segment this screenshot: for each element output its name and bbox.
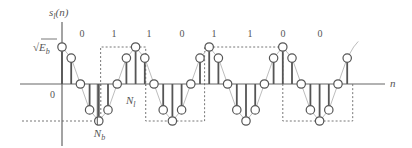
bit-label: 1 <box>147 28 152 39</box>
bit-label: 1 <box>212 28 217 39</box>
dashed-box <box>283 84 320 121</box>
stem-marker <box>85 106 93 114</box>
y-label-arg: (n) <box>56 6 69 19</box>
bit-label: 0 <box>180 28 185 39</box>
stem-marker <box>279 43 287 51</box>
bit-label: 0 <box>318 28 323 39</box>
stem-marker <box>95 117 103 125</box>
stem-marker <box>334 80 342 88</box>
dashed-box <box>209 47 283 84</box>
stem-marker <box>288 54 296 62</box>
stem-diagram: sl(n) n 0 √Eb Nl Nb 01101100 <box>0 0 412 148</box>
stem-marker <box>58 43 66 51</box>
stem-marker <box>242 117 250 125</box>
stem-marker <box>205 43 213 51</box>
bit-label: 1 <box>248 28 253 39</box>
stem-marker <box>196 54 204 62</box>
stem-marker <box>67 54 75 62</box>
nb-sub: b <box>101 133 105 142</box>
stem-marker <box>159 106 167 114</box>
stem-marker <box>122 54 130 62</box>
x-axis-label: n <box>390 77 396 89</box>
stem-marker <box>214 54 222 62</box>
stem-marker <box>260 80 268 88</box>
stem-marker <box>150 80 158 88</box>
stem-marker <box>131 43 139 51</box>
stem-marker <box>177 106 185 114</box>
stem-marker <box>113 80 121 88</box>
stem-plot-canvas: sl(n) n 0 √Eb Nl Nb 01101100 <box>0 0 412 148</box>
stem-marker <box>343 54 351 62</box>
bit-length-label: Nb <box>93 127 105 142</box>
stem-marker <box>223 80 231 88</box>
amp-sub: b <box>46 47 50 56</box>
y-axis-label: sl(n) <box>49 6 69 21</box>
bit-label: 1 <box>112 28 117 39</box>
stem-marker <box>251 106 259 114</box>
bit-label: 0 <box>281 28 286 39</box>
stem-marker <box>168 117 176 125</box>
bit-labels: 01101100 <box>80 28 323 39</box>
period-label: Nl <box>125 94 136 109</box>
stem-marker <box>141 54 149 62</box>
stem-marker <box>233 106 241 114</box>
nl-sub: l <box>133 100 136 109</box>
amplitude-label: √Eb <box>33 41 50 56</box>
stem-marker <box>325 106 333 114</box>
stem-marker <box>76 80 84 88</box>
stem-marker <box>187 80 195 88</box>
stem-marker <box>104 106 112 114</box>
stem-marker <box>297 80 305 88</box>
stem-marker <box>269 54 277 62</box>
stem-marker <box>306 106 314 114</box>
stem-marker <box>315 117 323 125</box>
bit-label: 0 <box>80 28 85 39</box>
origin-label: 0 <box>50 89 55 100</box>
